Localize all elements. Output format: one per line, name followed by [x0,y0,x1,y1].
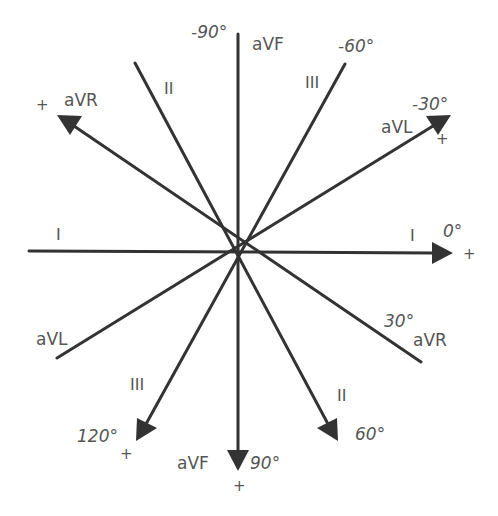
label-ii-top: II [164,79,173,98]
label-deg-30: 30° [384,311,414,331]
arrow-head-avr [57,115,82,135]
label-avr-positive: aVR [64,90,98,110]
label-avr-plus: + [36,96,49,114]
label-iii-top: III [305,73,319,92]
label-iii-plus: + [120,445,133,463]
label-i-plus: + [463,245,476,263]
label-i-right: I [410,226,415,245]
label-deg-0: 0° [443,221,462,241]
arrow-head-i [432,242,453,264]
arrow-head-avf [227,450,249,471]
label-avl-negative: aVL [36,329,68,349]
label-avl-positive: aVL [381,117,413,137]
label-ii-bottom: II [337,386,346,405]
label-deg-60: 60° [355,424,385,444]
label-deg-neg30: -30° [412,94,448,114]
label-avf-bottom: aVF [177,453,209,473]
label-avl-plus: + [436,130,449,148]
label-deg-neg90: -90° [191,22,227,42]
label-avr-negative: aVR [413,330,447,350]
label-deg-120: 120° [77,426,118,446]
label-iii-bottom: III [130,375,144,394]
label-i-left: I [56,225,61,244]
label-deg-neg60: -60° [338,36,374,56]
hexaxial-diagram: -90° aVF -60° III II + aVR -30° aVL + I … [0,0,498,516]
label-deg-90: 90° [250,453,280,473]
label-avf-top: aVF [252,34,284,54]
label-avf-plus: + [233,477,246,495]
